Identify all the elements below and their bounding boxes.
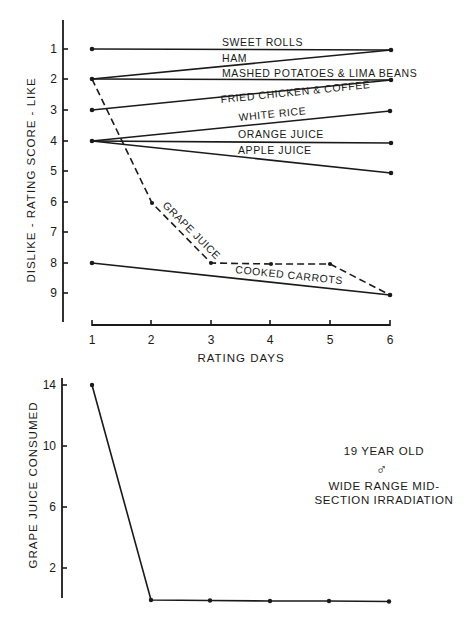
y-tick-1: 1 [50,42,57,56]
label-apple-juice: APPLE JUICE [238,144,312,156]
y-tick-14: 14 [43,378,57,392]
annotation-line3: SECTION IRRADIATION [315,494,454,506]
y-tick-8: 8 [50,256,57,270]
y-tick-2: 2 [49,561,56,575]
y-tick-5: 5 [50,164,57,178]
y-tick-2: 2 [50,72,57,86]
y-tick-6: 6 [50,195,57,209]
y-tick-3: 3 [50,103,57,117]
label-ham: HAM [222,52,247,64]
label-grape-juice: GRAPE JUICE [161,199,224,262]
top-y-tick-labels: 1 2 3 4 5 6 7 8 9 [50,42,57,300]
x-tick-2: 2 [148,333,155,347]
x-tick-3: 3 [208,333,215,347]
label-mashed: MASHED POTATOES & LIMA BEANS [222,67,417,79]
y-tick-7: 7 [50,225,57,239]
label-fried-chicken: FRIED CHICKEN & COFFEE [220,78,371,105]
x-tick-1: 1 [89,333,96,347]
x-tick-5: 5 [327,333,334,347]
male-symbol-icon: ♂ [376,460,388,477]
figure: 1 2 3 4 5 6 7 8 9 1 2 3 4 5 6 DISLIKE - … [0,0,475,618]
label-cooked-carrots: COOKED CARROTS [235,263,344,286]
top-x-axis-title: RATING DAYS [197,352,284,364]
x-tick-4: 4 [267,333,274,347]
top-chart [63,20,393,326]
label-orange-juice: ORANGE JUICE [238,128,324,140]
y-tick-9: 9 [50,286,57,300]
bottom-y-tick-labels: 14 10 6 2 [43,378,57,575]
line-orange-juice [92,141,391,143]
annotation-age: 19 YEAR OLD [344,445,425,457]
y-tick-10: 10 [43,439,57,453]
bottom-y-axis-title: GRAPE JUICE CONSUMED [27,402,39,569]
top-x-tick-labels: 1 2 3 4 5 6 [89,333,394,347]
top-y-axis-title: DISLIKE - RATING SCORE - LIKE [25,77,37,282]
y-tick-6: 6 [49,500,56,514]
subject-annotation: 19 YEAR OLD ♂ WIDE RANGE MID- SECTION IR… [315,445,454,506]
line-sweet-rolls [92,49,391,50]
label-sweet-rolls: SWEET ROLLS [222,36,303,48]
annotation-line2: WIDE RANGE MID- [328,480,439,492]
y-tick-4: 4 [50,134,57,148]
x-tick-6: 6 [387,333,394,347]
